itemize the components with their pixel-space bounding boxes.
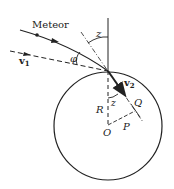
v2-arrow <box>108 71 122 91</box>
v1-label: v1 <box>18 55 30 68</box>
meteor-diagram: Meteor v1 v2 z φ z R O P Q <box>0 0 174 189</box>
P-segment <box>108 111 135 125</box>
meteor-dot <box>35 33 39 37</box>
z-label-inner: z <box>110 98 116 108</box>
O-label: O <box>103 127 111 138</box>
P-label: P <box>122 121 130 132</box>
Q-label: Q <box>134 97 142 108</box>
phi-label: φ <box>70 53 77 64</box>
meteor-label: Meteor <box>32 19 69 30</box>
z-label-top: z <box>95 28 102 39</box>
R-label: R <box>95 104 104 115</box>
meteor-trajectory <box>20 30 108 71</box>
meteor-arrowhead <box>51 38 59 43</box>
v2-label: v2 <box>123 77 135 90</box>
